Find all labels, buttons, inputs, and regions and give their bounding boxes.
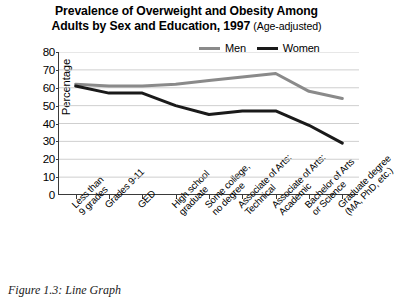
legend-label-men: Men <box>225 42 246 54</box>
series-line-men <box>76 73 343 98</box>
plot-lines <box>59 52 359 195</box>
chart-title: Prevalence of Overweight and Obesity Amo… <box>0 4 373 34</box>
y-tick-label: 80 <box>25 46 55 58</box>
chart-title-line-2: Adults by Sex and Education, 1997 (Age-a… <box>0 19 373 34</box>
y-tick-label: 20 <box>25 153 55 165</box>
legend-label-women: Women <box>283 42 320 54</box>
legend-entry-women: Women <box>257 42 320 54</box>
legend-swatch-women-icon <box>257 47 278 50</box>
series-line-women <box>76 86 343 143</box>
y-tick-label: 10 <box>25 171 55 183</box>
chart-title-line-1: Prevalence of Overweight and Obesity Amo… <box>0 4 373 19</box>
chart-legend: Men Women <box>199 42 320 54</box>
legend-entry-men: Men <box>199 42 246 54</box>
y-tick-label: 40 <box>25 118 55 130</box>
y-tick-label: 30 <box>25 136 55 148</box>
chart-title-main: Adults by Sex and Education, 1997 <box>52 19 254 33</box>
y-tick-label: 50 <box>25 100 55 112</box>
figure-caption: Figure 1.3: Line Graph <box>8 283 121 298</box>
y-tick-label: 70 <box>25 64 55 76</box>
y-tick-label: 0 <box>25 189 55 201</box>
y-tick-label: 60 <box>25 82 55 94</box>
chart-title-qualifier: (Age-adjusted) <box>253 20 321 32</box>
legend-swatch-men-icon <box>199 47 220 50</box>
series-paths <box>76 73 343 143</box>
plot-area: Percentage 01020304050607080 Less than9 … <box>58 52 358 195</box>
